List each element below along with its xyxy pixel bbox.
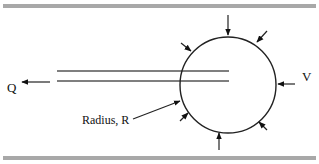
flow-label: Q	[7, 80, 17, 95]
inward-arrow-icon	[257, 31, 267, 42]
velocity-label: V	[302, 69, 312, 84]
bottom-boundary-bar	[3, 156, 316, 160]
inward-arrow-icon	[180, 113, 188, 121]
inward-arrow-icon	[181, 43, 191, 51]
radius-pointer-arrow-icon	[133, 101, 180, 119]
radial-flow-diagram: Q Radius, R V	[0, 0, 319, 164]
inward-arrow-icon	[259, 122, 267, 130]
sink-circle	[180, 37, 276, 133]
radius-label: Radius, R	[82, 113, 129, 127]
top-boundary-bar	[3, 4, 316, 8]
